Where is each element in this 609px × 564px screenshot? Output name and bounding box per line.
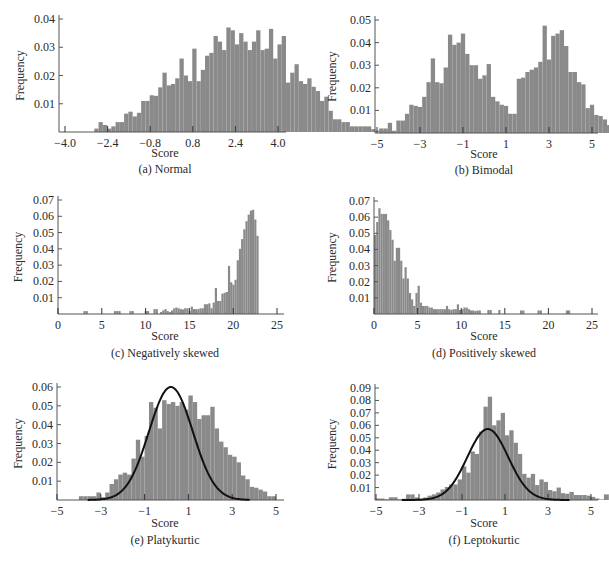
- histogram-bar: [158, 428, 162, 500]
- histogram-bar: [231, 30, 235, 132]
- histogram-bar: [153, 408, 157, 500]
- histogram-bar: [248, 50, 252, 132]
- histogram-bar: [426, 82, 430, 133]
- histogram-bar: [496, 420, 500, 500]
- y-tick-label: 0.02: [350, 81, 371, 95]
- y-tick-label: 0.02: [32, 455, 53, 469]
- histogram-bar: [237, 462, 241, 500]
- histogram-bar: [452, 45, 456, 133]
- histogram-bar: [282, 36, 286, 132]
- histogram-bar: [241, 239, 243, 314]
- histogram-bar: [303, 84, 307, 132]
- histogram-bar: [175, 78, 179, 132]
- y-tick-label: 0.03: [350, 456, 371, 470]
- histogram-bar: [439, 309, 441, 314]
- histogram-bar: [250, 487, 254, 500]
- histogram-bar: [420, 303, 422, 314]
- y-tick-label: 0.09: [350, 381, 371, 395]
- histogram-bar: [213, 303, 215, 314]
- histogram-bar: [444, 67, 448, 133]
- histogram-bar: [164, 309, 166, 314]
- y-tick-label: 0.07: [350, 406, 371, 420]
- caption-platykurtic: (e) Platykurtic: [15, 533, 315, 548]
- histogram-bar: [184, 410, 188, 500]
- histogram-bar: [435, 309, 437, 314]
- histogram-bar: [131, 459, 135, 500]
- histogram-bar: [431, 308, 433, 314]
- histogram-bar: [435, 82, 439, 133]
- histogram-bar: [290, 73, 294, 132]
- histogram-bar: [385, 214, 387, 314]
- histogram-bar: [245, 221, 247, 314]
- histogram-bar: [202, 308, 204, 314]
- histogram-bar: [405, 267, 407, 314]
- histogram-bar: [491, 97, 495, 133]
- histogram-bar: [171, 310, 173, 314]
- histogram-bar: [217, 301, 219, 314]
- y-tick-label: 0.06: [33, 209, 54, 223]
- histogram-bar: [476, 310, 478, 314]
- histogram-bar: [543, 26, 547, 133]
- caption-normal: (a) Normal: [15, 162, 315, 177]
- y-tick-label: 0.01: [34, 97, 55, 111]
- histogram-bar: [228, 455, 232, 500]
- histogram-bar: [208, 303, 210, 314]
- histogram-bar: [162, 73, 166, 132]
- histogram-bars: [376, 397, 609, 500]
- histogram-bar: [448, 35, 452, 133]
- histogram-bar: [299, 81, 303, 132]
- histogram-bar: [383, 128, 387, 133]
- histogram-bar: [414, 106, 418, 133]
- histogram-bar: [350, 126, 354, 132]
- y-tick-label: 0.03: [33, 258, 54, 272]
- histogram-bar: [426, 306, 428, 314]
- histogram-bar: [320, 101, 324, 132]
- histogram-bar: [191, 307, 193, 314]
- y-axis-label: Frequency: [13, 50, 27, 101]
- histogram-bars: [79, 395, 276, 500]
- histogram-bar: [521, 78, 525, 133]
- histogram-bar: [188, 81, 192, 132]
- histogram-bar: [156, 309, 158, 314]
- histogram-bar: [154, 96, 158, 132]
- histogram-bar: [402, 278, 404, 314]
- y-axis-label: Frequency: [11, 418, 25, 469]
- histogram-bar: [193, 402, 197, 500]
- histogram-bar: [186, 308, 188, 314]
- caption-bimodal: (b) Bimodal: [334, 163, 609, 178]
- y-tick-label: 0.02: [34, 69, 55, 83]
- histogram-bar: [162, 400, 166, 500]
- histogram-bar: [574, 495, 578, 500]
- histogram-bar: [522, 310, 524, 314]
- histogram-bar: [195, 309, 197, 314]
- histogram-bar: [218, 42, 222, 132]
- histogram-bar: [226, 27, 230, 132]
- histogram-bar: [442, 309, 444, 314]
- histogram-bar: [237, 260, 239, 314]
- histogram-bar: [375, 131, 379, 132]
- histogram-bar: [346, 122, 350, 132]
- histogram-bar: [145, 101, 149, 132]
- histogram-bar: [243, 229, 245, 314]
- y-tick-label: 0.04: [33, 242, 54, 256]
- histogram-bar: [453, 484, 457, 500]
- histogram-bar: [396, 121, 400, 133]
- y-tick-label: 0.06: [32, 380, 53, 394]
- histogram-bar: [431, 58, 435, 133]
- caption-positively-skewed: (d) Positively skewed: [334, 346, 609, 361]
- histogram-bar: [209, 53, 213, 132]
- histogram-bar: [487, 64, 491, 133]
- histogram-bar: [557, 488, 561, 500]
- histogram-bar: [272, 496, 276, 500]
- histogram-bar: [222, 50, 226, 132]
- y-axis-label: Frequency: [11, 232, 25, 283]
- histogram-bar: [381, 214, 383, 314]
- histogram-bar: [167, 404, 171, 500]
- histogram-bar: [193, 309, 195, 314]
- histogram-bar: [581, 84, 585, 133]
- histogram-bar: [538, 310, 540, 314]
- histogram-bar: [409, 293, 411, 314]
- y-tick-label: 0.04: [32, 418, 53, 432]
- histogram-bar: [498, 310, 500, 314]
- histogram-bar: [391, 240, 393, 314]
